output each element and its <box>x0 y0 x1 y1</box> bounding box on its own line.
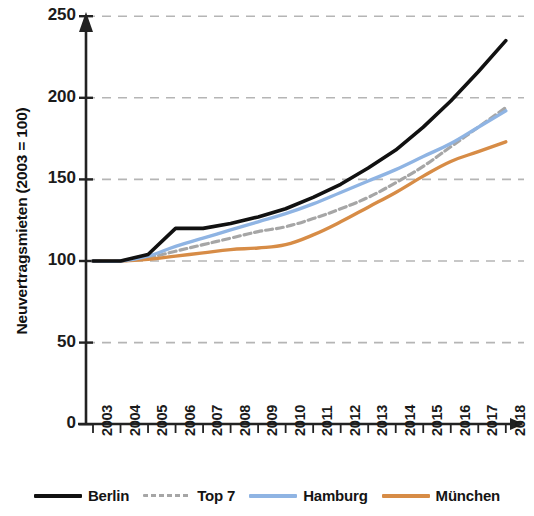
x-tick-label-2017: 2017 <box>484 405 500 436</box>
x-tick-label-2007: 2007 <box>209 405 225 436</box>
series-line-top-7 <box>93 108 506 262</box>
legend-swatch-top-7-icon <box>143 494 191 497</box>
legend-item-top-7[interactable]: Top 7 <box>143 487 235 504</box>
x-tick-label-2013: 2013 <box>374 405 390 436</box>
x-tick-label-2008: 2008 <box>237 405 253 436</box>
x-tick-label-2014: 2014 <box>402 405 418 436</box>
legend-item-hamburg[interactable]: Hamburg <box>249 487 367 504</box>
x-tick-label-2003: 2003 <box>99 405 115 436</box>
legend-label: München <box>436 487 500 504</box>
x-tick-label-2005: 2005 <box>154 405 170 436</box>
legend-swatch-berlin-icon <box>34 494 82 498</box>
x-tick-label-2018: 2018 <box>512 405 528 436</box>
legend-label: Top 7 <box>197 487 235 504</box>
plot-area <box>0 0 534 440</box>
legend-item-berlin[interactable]: Berlin <box>34 487 129 504</box>
x-tick-label-2012: 2012 <box>347 405 363 436</box>
x-tick-label-2011: 2011 <box>319 406 335 436</box>
legend-swatch-münchen-icon <box>382 494 430 498</box>
chart-container: Neuvertragsmieten (2003 = 100) 050100150… <box>0 0 534 516</box>
x-tick-label-2009: 2009 <box>264 405 280 436</box>
x-tick-label-2006: 2006 <box>182 405 198 436</box>
legend-item-münchen[interactable]: München <box>382 487 500 504</box>
y-axis-arrow <box>79 12 93 32</box>
x-tick-label-2016: 2016 <box>457 405 473 436</box>
x-tick-label-2010: 2010 <box>292 405 308 436</box>
x-tick-label-2004: 2004 <box>127 405 143 436</box>
legend-label: Hamburg <box>303 487 367 504</box>
chart-legend: BerlinTop 7HamburgMünchen <box>0 487 534 504</box>
legend-swatch-hamburg-icon <box>249 494 297 498</box>
legend-label: Berlin <box>88 487 129 504</box>
x-tick-label-2015: 2015 <box>429 405 445 436</box>
